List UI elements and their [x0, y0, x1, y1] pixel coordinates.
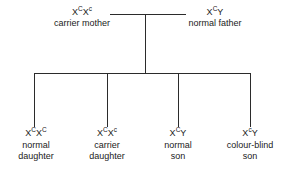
- father-allele-2-base: Y: [217, 7, 223, 17]
- child-2-allele-2-superscript: c: [114, 126, 117, 133]
- child-4-allele-2-base: Y: [252, 128, 258, 138]
- child-1-genotype: XCXC: [0, 128, 72, 140]
- child-2-genotype: XCXc: [71, 128, 143, 140]
- child-3-allele-2-base: Y: [180, 128, 186, 138]
- child-1-description-line-2: daughter: [0, 151, 72, 163]
- child-4-genotype: XcY: [214, 128, 286, 140]
- child-1-allele-2-superscript: C: [42, 126, 47, 133]
- child-3-description-line-1: normal: [142, 140, 214, 152]
- child-node-4: XcY colour-blind son: [214, 128, 286, 163]
- father-node: XCY normal father: [152, 7, 278, 30]
- child-4-description-line-1: colour-blind: [214, 140, 286, 152]
- sibship-bar: [34, 73, 250, 74]
- father-genotype: XCY: [152, 7, 278, 18]
- mother-node: XCXc carrier mother: [18, 7, 146, 30]
- child-drop-line-1: [34, 73, 35, 127]
- father-description: normal father: [152, 18, 278, 29]
- child-3-description-line-2: son: [142, 151, 214, 163]
- child-drop-line-2: [107, 73, 108, 127]
- child-4-description-line-2: son: [214, 151, 286, 163]
- marriage-line-right-segment: [146, 14, 186, 15]
- mother-description: carrier mother: [18, 18, 146, 29]
- descent-line: [145, 14, 146, 73]
- child-node-2: XCXc carrier daughter: [71, 128, 143, 163]
- marriage-line-left-segment: [110, 14, 145, 15]
- child-node-1: XCXC normal daughter: [0, 128, 72, 163]
- child-2-description-line-1: carrier: [71, 140, 143, 152]
- child-2-description-line-2: daughter: [71, 151, 143, 163]
- child-3-genotype: XCY: [142, 128, 214, 140]
- mother-genotype: XCXc: [18, 7, 146, 18]
- mother-allele-2-superscript: c: [89, 5, 92, 12]
- pedigree-diagram: XCXc carrier mother XCY normal father XC…: [0, 0, 293, 178]
- child-drop-line-3: [178, 73, 179, 127]
- child-1-description-line-1: normal: [0, 140, 72, 152]
- child-node-3: XCY normal son: [142, 128, 214, 163]
- child-drop-line-4: [250, 73, 251, 127]
